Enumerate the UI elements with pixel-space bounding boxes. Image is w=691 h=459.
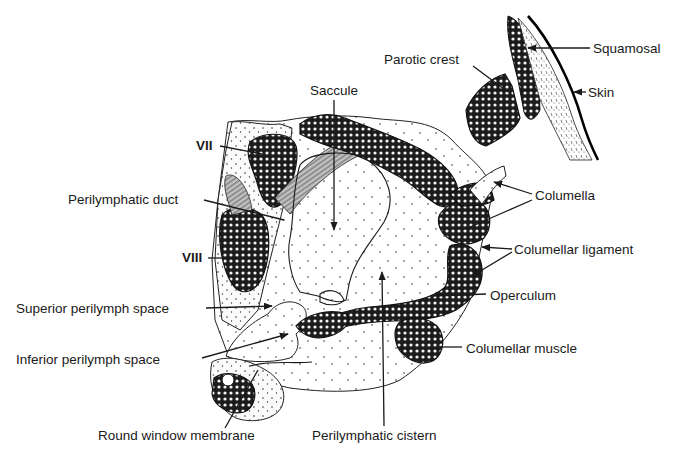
- parotic-crest-shape: [466, 74, 520, 146]
- svg-text:Superior perilymph space: Superior perilymph space: [16, 301, 169, 316]
- svg-text:Columellar ligament: Columellar ligament: [514, 242, 634, 257]
- squamosal-shape: [508, 16, 598, 160]
- svg-text:Perilymphatic duct: Perilymphatic duct: [68, 192, 179, 207]
- svg-text:Round window membrane: Round window membrane: [98, 428, 255, 443]
- svg-text:Skin: Skin: [588, 85, 614, 100]
- svg-text:VII: VII: [196, 138, 213, 153]
- svg-text:Columellar muscle: Columellar muscle: [466, 341, 577, 356]
- svg-text:Inferior perilymph space: Inferior perilymph space: [16, 352, 160, 367]
- anatomical-diagram: Saccule Parotic crest Squamosal Skin VII…: [0, 0, 691, 459]
- svg-text:Operculum: Operculum: [490, 288, 556, 303]
- svg-text:Saccule: Saccule: [310, 83, 358, 98]
- label-columellar-ligament: Columellar ligament: [472, 242, 634, 276]
- svg-text:Parotic crest: Parotic crest: [384, 52, 459, 67]
- label-columellar-muscle: Columellar muscle: [440, 341, 577, 356]
- label-skin: Skin: [574, 85, 614, 100]
- svg-text:Columella: Columella: [535, 188, 596, 203]
- svg-text:VIII: VIII: [182, 250, 202, 265]
- svg-text:Perilymphatic cistern: Perilymphatic cistern: [312, 428, 437, 443]
- svg-text:Squamosal: Squamosal: [593, 41, 661, 56]
